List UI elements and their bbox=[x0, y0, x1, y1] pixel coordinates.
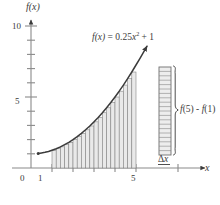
riemann-bar bbox=[119, 91, 123, 168]
x-tick-label-1: 1 bbox=[38, 174, 43, 183]
riemann-bar bbox=[52, 150, 56, 168]
riemann-bar bbox=[90, 126, 94, 168]
function-lhs: f(x) bbox=[92, 32, 105, 42]
x-axis-label: x bbox=[205, 163, 209, 173]
riemann-bar bbox=[123, 85, 127, 168]
riemann-sum-figure: f(x) x 10 5 0 1 5 f(x) = 0.25x2 + 1 f(5)… bbox=[0, 0, 220, 205]
riemann-bar bbox=[102, 113, 106, 168]
riemann-bar bbox=[73, 140, 77, 168]
riemann-bar bbox=[65, 145, 69, 168]
riemann-bar bbox=[77, 137, 81, 168]
brace-f1-arg: (1) bbox=[204, 104, 215, 114]
riemann-bar bbox=[86, 130, 90, 168]
riemann-bar bbox=[128, 79, 132, 168]
function-equals: = bbox=[105, 32, 115, 42]
riemann-bar bbox=[132, 72, 136, 168]
y-tick-label-5: 5 bbox=[15, 97, 20, 106]
delta-x-label: Δx bbox=[158, 155, 168, 165]
y-axis-label: f(x) bbox=[26, 2, 40, 12]
brace-difference-label: f(5) - f(1) bbox=[180, 105, 215, 115]
function-coefficient: 0.25 bbox=[115, 32, 132, 42]
origin-tick-label: 0 bbox=[20, 174, 25, 183]
riemann-rectangles bbox=[52, 72, 136, 168]
function-equation-label: f(x) = 0.25x2 + 1 bbox=[92, 31, 154, 43]
riemann-bar bbox=[60, 147, 64, 168]
riemann-bar bbox=[111, 103, 115, 168]
riemann-bar bbox=[115, 97, 119, 168]
curve-start-dot bbox=[37, 152, 40, 155]
riemann-bar bbox=[56, 149, 60, 168]
riemann-bar bbox=[98, 117, 102, 168]
brace-minus: - bbox=[194, 104, 202, 114]
brace-f5-arg: (5) bbox=[183, 104, 194, 114]
riemann-bar bbox=[81, 133, 85, 168]
x-tick-label-5: 5 bbox=[131, 174, 136, 183]
y-axis bbox=[25, 20, 37, 168]
right-brace bbox=[174, 66, 179, 155]
stacked-increments-column bbox=[159, 67, 171, 155]
delta-x-variable: x bbox=[164, 154, 168, 164]
riemann-bar bbox=[94, 122, 98, 168]
riemann-bar bbox=[69, 142, 73, 168]
riemann-bar bbox=[107, 108, 111, 168]
y-tick-label-10: 10 bbox=[12, 22, 21, 31]
function-tail: + 1 bbox=[139, 32, 154, 42]
